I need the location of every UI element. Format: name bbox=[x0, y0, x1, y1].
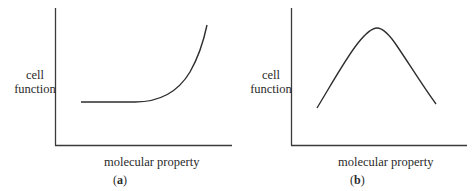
y-axis-label-line2: function bbox=[5, 82, 65, 96]
x-axis-label: molecular property bbox=[104, 155, 199, 170]
chart-panel-b: cell function molecular property (b) bbox=[236, 0, 476, 191]
chart-panel-a: cell function molecular property (a) bbox=[0, 0, 238, 191]
curve-exponential-rise bbox=[81, 25, 207, 102]
panel-label: (a) bbox=[113, 173, 127, 188]
panel-label: (b) bbox=[350, 173, 365, 188]
y-axis-label-line1: cell bbox=[5, 68, 65, 82]
curve-bell-shaped bbox=[317, 28, 436, 108]
y-axis-label: cell function bbox=[5, 68, 65, 96]
paren-close: ) bbox=[123, 173, 127, 187]
panel-letter: b bbox=[354, 173, 361, 187]
paren-close: ) bbox=[361, 173, 365, 187]
y-axis-label: cell function bbox=[241, 68, 301, 96]
x-axis-label: molecular property bbox=[338, 155, 433, 170]
y-axis-label-line2: function bbox=[241, 82, 301, 96]
y-axis-label-line1: cell bbox=[241, 68, 301, 82]
